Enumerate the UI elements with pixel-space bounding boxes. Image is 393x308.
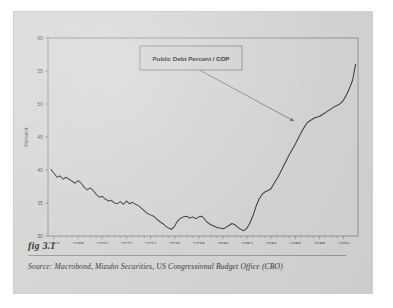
source-text: Macrobond, Mizuho Securities, US Congres… [54,262,282,271]
y-axis-title: Percent [23,127,29,147]
figure-number-label: fig 3.1 [28,240,358,252]
figure-caption-block: fig 3.1 Source: Macrobond, Mizuho Securi… [28,240,358,271]
caption-divider [28,255,346,256]
series-line-public-debt-percent-gdp [51,64,356,230]
y-axis: 30354045505560 [37,35,48,239]
y-tick-label: 35 [37,200,43,206]
annotation-label: Public Debt Percent / GDP [152,55,229,62]
y-tick-label: 50 [37,101,43,107]
figure-page: 30354045505560 1966196819701972197419761… [14,12,372,293]
y-tick-label: 55 [37,68,43,74]
y-tick-label: 60 [37,35,43,41]
y-tick-label: 40 [37,167,43,173]
y-tick-label: 30 [37,233,43,239]
figure-source-line: Source: Macrobond, Mizuho Securities, US… [28,262,358,271]
source-prefix: Source: [28,262,52,271]
annotation-arrow [194,67,294,121]
y-tick-label: 45 [37,134,43,140]
debt-to-gdp-line-chart: 30354045505560 1966196819701972197419761… [14,12,372,244]
chart-figure: 30354045505560 1966196819701972197419761… [14,12,372,293]
